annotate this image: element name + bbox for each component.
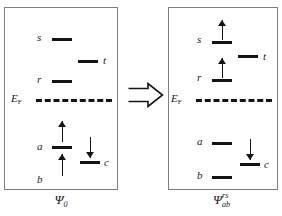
arrow-head (86, 152, 94, 158)
spin-arrow-up-above-a (58, 121, 67, 142)
level-label-s: s (37, 32, 41, 43)
double-right-arrow-icon (128, 82, 164, 108)
level-bar-c (80, 161, 100, 164)
spin-arrow-down-c (246, 139, 255, 160)
level-label-t: t (103, 55, 106, 66)
arrow-head (218, 20, 226, 26)
panel-reference-body: s t r EF a (5, 8, 117, 189)
level-label-a: a (37, 141, 43, 152)
level-label-c: c (264, 159, 269, 170)
caption-double-excitation: Ψrsab (168, 191, 278, 206)
panel-double-excitation-body: s t r EF a c (169, 8, 277, 189)
level-label-b: b (37, 174, 43, 185)
spin-arrow-up-r (218, 58, 227, 78)
arrow-head (246, 154, 254, 160)
caption-indices: rsab (222, 191, 233, 204)
panel-double-excitation: s t r EF a c (168, 7, 278, 190)
spin-arrow-down-c (86, 137, 95, 158)
fermi-level-line (196, 99, 272, 102)
level-bar-b (212, 176, 232, 179)
level-bar-c (240, 163, 260, 166)
level-bar-a (212, 142, 232, 145)
level-label-r: r (197, 72, 201, 83)
spin-arrow-up-below-a (58, 154, 67, 176)
spin-arrow-up-s (218, 20, 227, 40)
fermi-level-label: EF (171, 93, 182, 106)
level-bar-r (212, 79, 232, 82)
level-bar-s (212, 41, 232, 44)
fermi-level-line (36, 99, 112, 102)
level-bar-t (238, 55, 258, 58)
figure-canvas: s t r EF a (0, 0, 282, 216)
level-label-c: c (104, 157, 109, 168)
level-bar-t (78, 60, 98, 63)
arrow-head (218, 58, 226, 64)
level-label-t: t (263, 51, 266, 62)
arrow-head (58, 154, 66, 160)
arrow-head (58, 121, 66, 127)
caption-reference-determinant: Ψ0 (4, 193, 118, 208)
level-bar-r (52, 80, 72, 83)
level-bar-s (52, 38, 72, 41)
level-label-r: r (37, 74, 41, 85)
panel-reference-determinant: s t r EF a (4, 7, 118, 190)
level-bar-a (52, 146, 72, 149)
level-label-a: a (197, 136, 203, 147)
level-label-b: b (197, 170, 203, 181)
level-label-s: s (197, 34, 201, 45)
fermi-level-label: EF (11, 93, 22, 106)
